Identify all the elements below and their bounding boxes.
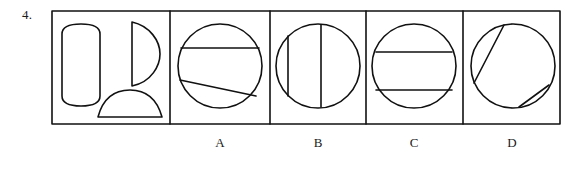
- option-d-short-slanted-chord: [519, 85, 549, 107]
- dome-segment-piece: [98, 90, 162, 117]
- option-label-d[interactable]: D: [500, 136, 524, 149]
- option-a-slanted-chord: [180, 80, 256, 96]
- option-c-circle: [372, 24, 456, 108]
- option-label-b[interactable]: B: [306, 136, 330, 149]
- rounded-rectangle-piece: [62, 24, 100, 106]
- option-d-figure[interactable]: [471, 24, 555, 108]
- figure-diagram: [0, 0, 579, 169]
- option-b-figure[interactable]: [276, 24, 360, 108]
- half-disc-piece: [132, 22, 160, 86]
- question-figure-container: 4.: [0, 0, 579, 169]
- prompt-panel-pieces: [62, 22, 162, 117]
- option-label-c[interactable]: C: [402, 136, 426, 149]
- option-d-long-slanted-chord: [474, 25, 504, 83]
- option-a-figure[interactable]: [178, 24, 262, 108]
- option-label-a[interactable]: A: [208, 136, 232, 149]
- option-c-figure[interactable]: [372, 24, 456, 108]
